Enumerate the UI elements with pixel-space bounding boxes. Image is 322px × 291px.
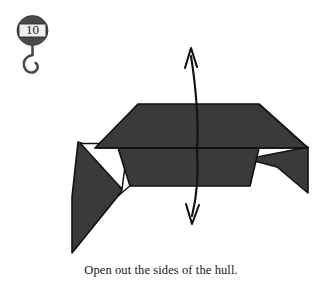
paper-model bbox=[72, 104, 308, 253]
step-marker-hook: 10 bbox=[17, 16, 48, 73]
caption-text: Open out the sides of the hull. bbox=[0, 263, 322, 278]
origami-diagram: 10 bbox=[0, 0, 322, 291]
top-deck-panel bbox=[95, 104, 308, 148]
diagram-page: 10 bbox=[0, 0, 322, 291]
step-number: 10 bbox=[26, 22, 39, 37]
lower-hull-body bbox=[118, 148, 259, 186]
hook-curve bbox=[24, 55, 38, 73]
